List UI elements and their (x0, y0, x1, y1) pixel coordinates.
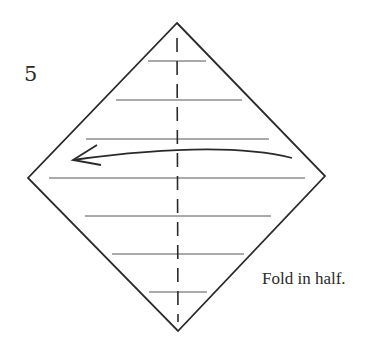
step-number: 5 (24, 62, 37, 86)
valley-fold-line (177, 38, 178, 322)
arrow-left-icon (73, 145, 292, 165)
instruction-caption: Fold in half. (262, 269, 346, 289)
